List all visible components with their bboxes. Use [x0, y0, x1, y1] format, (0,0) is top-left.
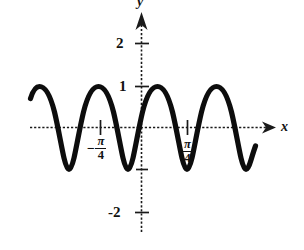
- x-axis-label: x: [281, 120, 288, 134]
- fraction-numerator: π: [96, 135, 107, 148]
- fraction-denominator: 4: [182, 152, 192, 165]
- pi-over-4-fraction: π 4: [182, 138, 193, 165]
- y-tick-label-1: 1: [119, 79, 127, 94]
- x-tick-label-pi-over-4: π 4: [182, 135, 193, 165]
- plot-canvas: [0, 0, 304, 250]
- fraction-pi-4-positive: π 4: [182, 138, 193, 165]
- y-tick-label-neg2: -2: [108, 205, 121, 220]
- fraction-pi-4: π 4: [95, 135, 106, 162]
- graph-figure: 2 1 -2 − π 4 π 4 x y: [0, 0, 304, 250]
- x-tick-label-neg-pi-over-4: − π 4: [87, 135, 106, 162]
- fraction-numerator: π: [182, 138, 193, 151]
- neg-pi-over-4-fraction: − π 4: [87, 135, 106, 162]
- minus-sign: −: [87, 142, 95, 156]
- fraction-denominator: 4: [96, 149, 106, 162]
- y-tick-label-2: 2: [116, 36, 124, 51]
- x-axis: [30, 122, 276, 134]
- y-axis-label: y: [137, 0, 143, 9]
- y-axis-arrowhead: [136, 12, 148, 30]
